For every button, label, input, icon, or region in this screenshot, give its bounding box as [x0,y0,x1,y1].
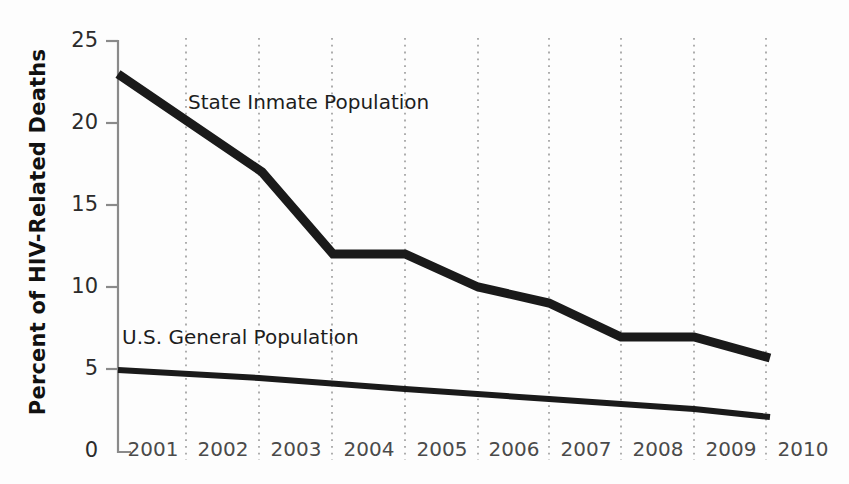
chart-plot-svg [0,0,849,484]
y-tick-label-10: 10 [52,274,98,298]
y-axis-spine [118,40,131,452]
x-tick-label-2006: 2006 [483,437,545,461]
annotation-us-general-population: U.S. General Population [122,325,359,349]
y-axis-ticks [106,41,118,369]
x-tick-label-2005: 2005 [411,437,473,461]
x-tick-label-2009: 2009 [700,437,762,461]
x-tick-label-2008: 2008 [627,437,689,461]
y-tick-label-25: 25 [52,28,98,52]
series-line-state-inmate [118,74,770,358]
y-tick-label-20: 20 [52,110,98,134]
series-line-us-general [118,370,770,417]
x-tick-label-2003: 2003 [265,437,327,461]
x-tick-label-2007: 2007 [555,437,617,461]
x-tick-label-2004: 2004 [338,437,400,461]
y-tick-label-0: 0 [52,438,98,462]
x-tick-label-2002: 2002 [192,437,254,461]
y-tick-label-15: 15 [52,192,98,216]
y-tick-label-5: 5 [52,356,98,380]
x-tick-label-2001: 2001 [122,437,184,461]
x-tick-label-2010: 2010 [772,437,834,461]
annotation-state-inmate-population: State Inmate Population [188,90,429,114]
chart-container: Percent of HIV-Related Deaths 25 20 15 1… [0,0,849,484]
